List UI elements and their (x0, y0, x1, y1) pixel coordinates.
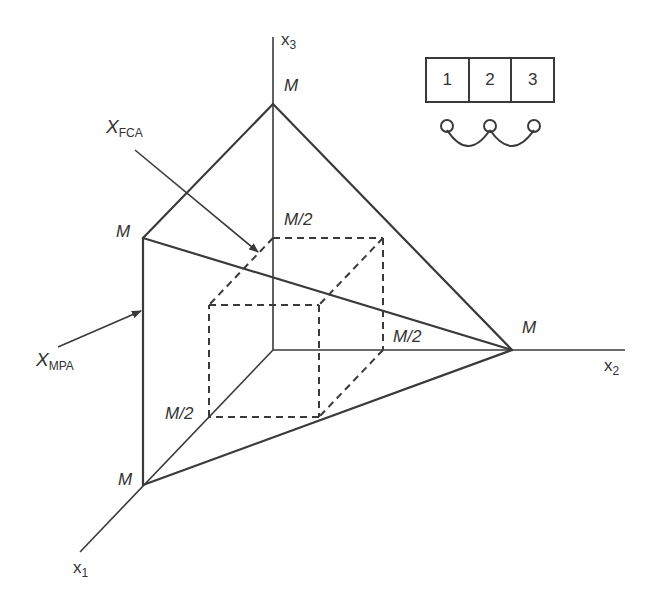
x1-half-label: M/2 (165, 404, 193, 424)
x3-half-label: M/2 (284, 210, 312, 230)
legend-cell-2: 2 (468, 59, 511, 101)
edge-x3M-to-corner (143, 104, 273, 238)
legend-cell-1: 1 (427, 59, 468, 101)
x1-axis (80, 350, 273, 552)
x2-axis-label: x2 (604, 356, 619, 378)
x2-half-label: M/2 (393, 327, 421, 347)
x1-axis-label: x1 (73, 558, 88, 580)
fca-label: XFCA (106, 116, 143, 140)
x2-M-label: M (522, 318, 536, 338)
corner-M-label: M (116, 222, 130, 242)
component-legend: 1 2 3 (425, 57, 555, 103)
fca-arrow (135, 150, 258, 252)
mpa-arrow (58, 311, 141, 347)
x1-M-label: M (118, 470, 132, 490)
edge-x1M-to-x2M (143, 350, 512, 485)
x3-M-label: M (284, 76, 298, 96)
x3-axis-label: x3 (281, 30, 296, 52)
legend-links (441, 120, 540, 146)
legend-cell-3: 3 (510, 59, 553, 101)
polytope-diagram (0, 0, 654, 611)
mpa-label: XMPA (36, 349, 74, 373)
